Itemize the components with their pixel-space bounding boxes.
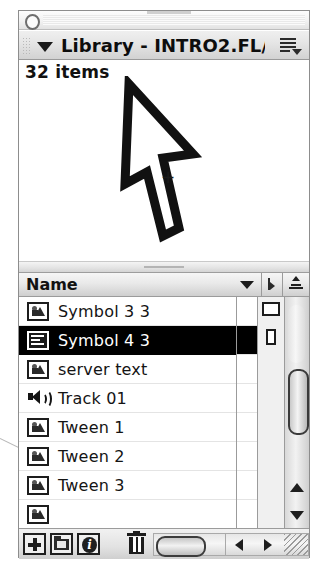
scroll-left-arrow-icon[interactable]: [226, 534, 254, 555]
drag-grip-icon[interactable]: [22, 37, 32, 55]
page-title: Library - INTRO2.FL/...: [61, 34, 265, 58]
sort-triangle-icon[interactable]: [240, 281, 254, 289]
list-item[interactable]: server text: [19, 355, 236, 384]
trash-delete-icon[interactable]: [126, 533, 147, 555]
library-list-rows[interactable]: Symbol 3 3 Symbol 4 3 server text: [19, 297, 237, 528]
list-item-label: server text: [58, 360, 148, 379]
graphic-symbol-icon: [27, 447, 49, 466]
list-item-label: Tween 2: [58, 447, 125, 466]
window-collapse-bar[interactable]: [19, 11, 309, 30]
list-item[interactable]: Symbol 4 3: [19, 326, 236, 355]
list-column-header: Name: [19, 273, 309, 297]
graphic-symbol-icon: [27, 360, 49, 379]
horizontal-scrollbar[interactable]: [153, 533, 309, 556]
list-item[interactable]: Track 01: [19, 384, 236, 413]
graphic-symbol-icon: [27, 505, 49, 524]
list-item-label: Symbol 4 3: [58, 331, 150, 350]
panel-options-menu-icon[interactable]: [280, 38, 302, 55]
linkage-icon: [268, 278, 270, 290]
new-symbol-plus-icon[interactable]: [23, 533, 46, 555]
narrow-rectangle-icon: [266, 329, 276, 345]
circle-collapse-icon[interactable]: [25, 14, 40, 30]
window-notch: [147, 11, 191, 14]
panel-title-bar[interactable]: Library - INTRO2.FL/...: [19, 30, 309, 60]
graphic-symbol-icon: [27, 418, 49, 437]
vertical-scroll-thumb[interactable]: [288, 369, 309, 435]
list-item[interactable]: Tween 3: [19, 471, 236, 500]
wide-rectangle-icon: [262, 302, 280, 316]
panel-splitter[interactable]: [19, 262, 309, 273]
graphic-symbol-icon: [27, 302, 49, 321]
column-header-name-label: Name: [26, 275, 78, 294]
graphic-symbol-icon: [27, 476, 49, 495]
list-stack-cells[interactable]: [258, 297, 284, 528]
list-item-label: Track 01: [58, 389, 127, 408]
resize-grip-icon[interactable]: [284, 534, 308, 555]
list-item[interactable]: Symbol 3 3: [19, 297, 236, 326]
stack-pyramid-icon: [288, 276, 304, 293]
item-count-label: 32 items: [25, 62, 110, 82]
movie-clip-symbol-icon: [27, 331, 49, 350]
list-item-label: Symbol 3 3: [58, 302, 150, 321]
list-item[interactable]: Tween 1: [19, 413, 236, 442]
horizontal-scroll-thumb[interactable]: [156, 536, 206, 557]
scroll-up-arrow-icon[interactable]: [290, 483, 304, 492]
properties-info-icon[interactable]: i: [77, 533, 100, 555]
library-list[interactable]: Symbol 3 3 Symbol 4 3 server text: [19, 297, 309, 528]
sound-icon: [27, 389, 49, 408]
triangle-down-icon[interactable]: [37, 42, 53, 52]
vertical-scroll-track[interactable]: [288, 305, 305, 363]
symbol-preview-area[interactable]: 32 items +: [19, 60, 309, 262]
list-linkage-cells: [237, 297, 258, 528]
library-panel: Library - INTRO2.FL/... 32 items + Name: [18, 10, 310, 558]
list-item[interactable]: [19, 500, 236, 528]
library-toolbar: i: [19, 528, 309, 559]
crosshair-plus-icon: +: [161, 172, 175, 182]
column-header-stack[interactable]: [283, 273, 309, 296]
scroll-right-arrow-icon[interactable]: [254, 534, 282, 555]
scroll-down-arrow-icon[interactable]: [290, 511, 304, 520]
properties-info-glyph: i: [82, 537, 97, 553]
titlebar-texture: [43, 15, 305, 26]
column-header-name[interactable]: Name: [19, 273, 262, 296]
vertical-scrollbar[interactable]: [284, 297, 309, 528]
list-item-label: Tween 3: [58, 476, 125, 495]
arrow-cursor-artwork: [111, 76, 221, 256]
column-header-linkage[interactable]: [262, 273, 283, 296]
list-item[interactable]: Tween 2: [19, 442, 236, 471]
list-item-label: Tween 1: [58, 418, 125, 437]
new-folder-icon[interactable]: [50, 533, 73, 555]
